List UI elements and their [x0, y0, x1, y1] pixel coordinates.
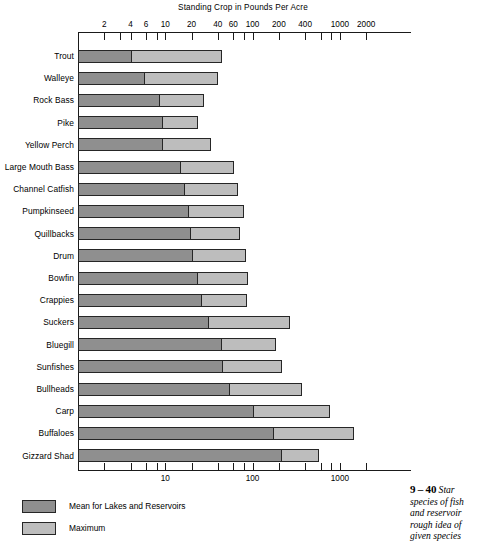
category-label: Gizzard Shad [0, 448, 74, 464]
bar-mean [78, 427, 274, 440]
chart-title: Standing Crop in Pounds Per Acre [78, 3, 408, 12]
axis-tick [253, 463, 254, 470]
axis-tick-label: 200 [272, 20, 286, 29]
chart-row: Buffaloes [0, 425, 491, 441]
axis-tick [279, 463, 280, 470]
figure-caption: 9 – 40 Starspecies of fishand reservoirr… [410, 484, 491, 542]
category-label: Suckers [0, 314, 74, 330]
axis-tick [165, 463, 166, 470]
chart-row: Sunfishes [0, 359, 491, 375]
category-label-text: Drum [53, 251, 74, 261]
bar-mean [78, 294, 202, 307]
bar-mean [78, 116, 163, 129]
category-label: Quillbacks [0, 226, 74, 242]
axis-tick [192, 463, 193, 470]
axis-tick [146, 33, 147, 40]
category-label-text: Crappies [40, 295, 74, 305]
legend-label: Maximum [69, 523, 105, 533]
axis-tick [165, 33, 166, 40]
category-label-text: Carp [56, 406, 75, 416]
category-label-text: Walleye [44, 73, 74, 83]
category-label: Channel Catfish [0, 181, 74, 197]
axis-tick [305, 463, 306, 470]
bar-mean [78, 94, 160, 107]
bar-mean [78, 383, 230, 396]
chart-row: Carp [0, 403, 491, 419]
category-label-text: Sunfishes [36, 362, 74, 372]
category-label-text: Channel Catfish [13, 184, 74, 194]
axis-tick-label: 1000 [331, 20, 349, 29]
axis-tick [244, 33, 245, 40]
axis-tick [218, 33, 219, 40]
axis-tick [331, 33, 332, 40]
category-label: Walleye [0, 70, 74, 86]
category-label: Trout [0, 48, 74, 64]
category-label-text: Buffaloes [38, 428, 74, 438]
chart-row: Quillbacks [0, 226, 491, 242]
category-label-text: Rock Bass [33, 95, 74, 105]
category-label: Buffaloes [0, 425, 74, 441]
axis-tick-label: 10 [161, 474, 170, 483]
axis-tick-label: 1000 [331, 474, 349, 483]
category-label-text: Trout [54, 51, 74, 61]
category-label-text: Quillbacks [35, 229, 74, 239]
chart-row: Walleye [0, 70, 491, 86]
bar-mean [78, 360, 223, 373]
category-label: Rock Bass [0, 92, 74, 108]
axis-tick [157, 33, 158, 40]
legend-swatch-max [22, 522, 56, 535]
category-label-text: Large Mouth Bass [5, 162, 74, 172]
chart-row: Pike [0, 115, 491, 131]
chart-row: Crappies [0, 292, 491, 308]
category-label-text: Pike [57, 118, 74, 128]
chart-row: Gizzard Shad [0, 448, 491, 464]
category-label: Large Mouth Bass [0, 159, 74, 175]
chart-row: Rock Bass [0, 92, 491, 108]
bar-mean [78, 316, 209, 329]
axis-tick [331, 463, 332, 470]
category-label: Crappies [0, 292, 74, 308]
legend-label: Mean for Lakes and Reservoirs [69, 501, 185, 511]
axis-tick [321, 463, 322, 470]
axis-tick [340, 463, 341, 470]
axis-tick [340, 33, 341, 40]
standing-crop-chart: Standing Crop in Pounds Per Acre 2461020… [0, 0, 491, 542]
axis-tick-label: 40 [213, 20, 222, 29]
category-label: Pumpkinseed [0, 203, 74, 219]
bar-mean [78, 272, 198, 285]
category-label: Pike [0, 115, 74, 131]
chart-row: Bowfin [0, 270, 491, 286]
axis-tick [366, 33, 367, 40]
axis-tick [104, 463, 105, 470]
bar-mean [78, 72, 145, 85]
axis-tick-label: 2000 [357, 20, 375, 29]
axis-tick-label: 60 [229, 20, 238, 29]
legend-swatch-mean [22, 500, 56, 513]
bar-mean [78, 449, 282, 462]
chart-row: Bullheads [0, 381, 491, 397]
category-label-text: Bowfin [48, 273, 74, 283]
chart-row: Drum [0, 248, 491, 264]
category-label: Drum [0, 248, 74, 264]
category-label-text: Pumpkinseed [22, 206, 74, 216]
axis-tick [157, 463, 158, 470]
axis-tick-label: 400 [298, 20, 312, 29]
axis-tick [104, 33, 105, 40]
axis-tick [233, 33, 234, 40]
category-label-text: Bullheads [36, 384, 74, 394]
axis-tick-label: 4 [128, 20, 133, 29]
axis-tick-label: 20 [187, 20, 196, 29]
axis-tick [131, 33, 132, 40]
axis-tick [120, 33, 121, 40]
bar-mean [78, 50, 132, 63]
axis-tick [253, 33, 254, 40]
axis-tick [244, 463, 245, 470]
category-label-text: Bluegill [46, 340, 74, 350]
figure-number: 9 – 40 [410, 483, 436, 495]
category-label-text: Suckers [43, 317, 74, 327]
axis-tick-label: 100 [246, 20, 260, 29]
axis-tick [192, 33, 193, 40]
bar-mean [78, 161, 181, 174]
category-label: Bluegill [0, 337, 74, 353]
bar-mean [78, 249, 193, 262]
